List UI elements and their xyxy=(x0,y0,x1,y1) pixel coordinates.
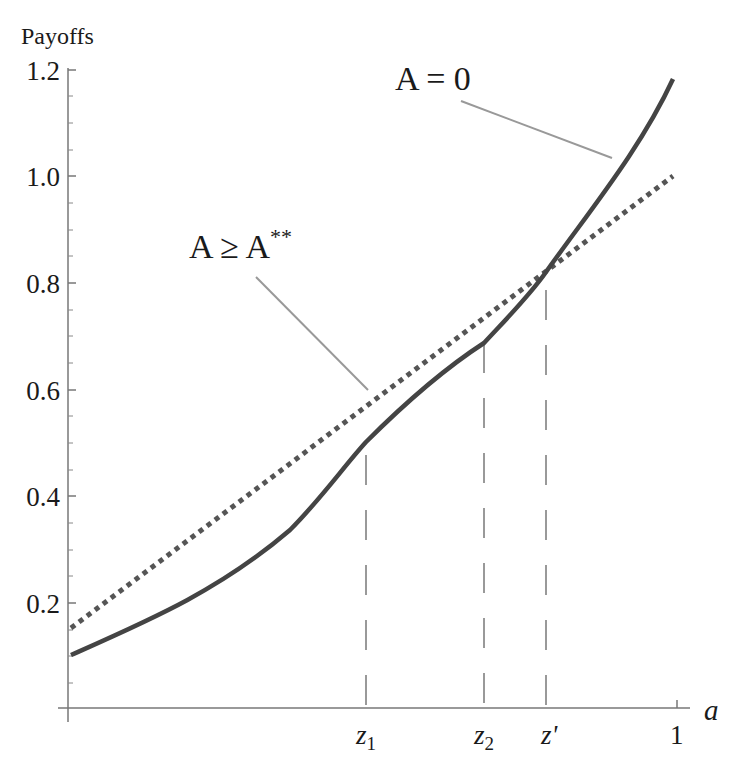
y-tick-label-0.8: 0.8 xyxy=(26,269,60,299)
x-tick-label-1: 1 xyxy=(670,720,684,750)
y-tick-label-0.6: 0.6 xyxy=(26,376,60,406)
y-tick-label-1.0: 1.0 xyxy=(26,162,60,192)
x-axis-label: a xyxy=(704,694,719,726)
x-tick-label-z1: z1 xyxy=(355,720,376,754)
annotation-a-geq-a-star: A ≥ A** xyxy=(189,224,292,265)
leader-a-geq xyxy=(256,277,368,390)
x-tick-label-z2: z2 xyxy=(473,720,494,754)
series-dotted-a-geq-a-star xyxy=(71,176,673,628)
y-tick-label-1.2: 1.2 xyxy=(26,56,60,86)
series-solid-a-zero xyxy=(71,79,673,655)
y-tick-label-0.2: 0.2 xyxy=(26,589,60,619)
dashed-guides xyxy=(366,290,546,708)
annotation-a-zero: A = 0 xyxy=(395,60,471,97)
y-axis-label: Payoffs xyxy=(21,23,94,49)
leader-a-zero xyxy=(461,101,612,158)
y-tick-label-0.4: 0.4 xyxy=(26,482,60,512)
x-tick-label-zprime: z' xyxy=(540,720,559,750)
payoff-chart: 1.2 1.0 0.8 0.6 0.4 0.2 Payoffs z1 z2 z'… xyxy=(0,0,742,772)
